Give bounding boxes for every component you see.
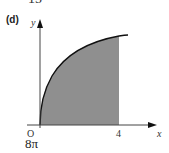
area-graph: y O 4 x	[0, 0, 169, 153]
x-axis-label: x	[156, 128, 162, 139]
x-axis-arrow-icon	[148, 122, 157, 128]
y-axis-label: y	[30, 17, 36, 28]
answer-text: 8π	[25, 136, 38, 152]
y-axis-arrow-icon	[37, 19, 43, 28]
x-tick-label: 4	[116, 128, 121, 139]
